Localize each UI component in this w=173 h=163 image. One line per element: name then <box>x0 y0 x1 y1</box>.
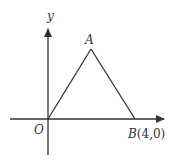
side-OA <box>48 49 91 119</box>
y-axis-label: y <box>46 9 54 23</box>
origin-label: O <box>34 123 44 137</box>
point-B-label-group: B(4,0) <box>127 127 165 141</box>
point-A-label: A <box>84 33 94 47</box>
point-B-label: B <box>127 127 137 141</box>
coordinate-diagram: y A O B(4,0) <box>0 0 173 163</box>
point-B-coords: (4,0) <box>137 127 165 141</box>
side-AB <box>91 49 135 119</box>
